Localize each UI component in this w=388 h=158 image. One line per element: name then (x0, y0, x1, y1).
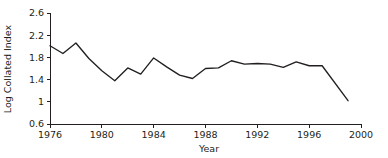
x-tick-label: 1980 (90, 129, 114, 140)
y-axis-group: 0.611.41.82.22.6 (29, 7, 50, 129)
line-chart: 0.611.41.82.22.6 19761980198419881992199… (0, 0, 388, 158)
x-tick-label: 1976 (38, 129, 62, 140)
x-axis-group: 1976198019841988199219962000 (38, 124, 373, 140)
x-axis-title: Year (198, 143, 219, 154)
x-tick-label: 2000 (349, 129, 373, 140)
y-tick-label: 1.8 (29, 52, 44, 63)
y-tick-labels: 0.611.41.82.22.6 (29, 7, 44, 129)
x-tick-label: 1984 (142, 129, 166, 140)
chart-container: 0.611.41.82.22.6 19761980198419881992199… (0, 0, 388, 158)
x-tick-label: 1988 (193, 129, 217, 140)
x-tick-labels: 1976198019841988199219962000 (38, 129, 373, 140)
y-tick-label: 0.6 (29, 118, 44, 129)
x-tick-label: 1996 (297, 129, 321, 140)
y-tick-marks (47, 13, 51, 124)
x-tick-marks (50, 124, 361, 128)
y-tick-label: 2.6 (29, 7, 44, 18)
y-tick-label: 1.4 (29, 74, 44, 85)
data-series-line (50, 43, 348, 101)
y-axis-title: Log Collated Index (2, 24, 13, 113)
y-tick-label: 2.2 (29, 30, 44, 41)
x-tick-label: 1992 (245, 129, 269, 140)
y-tick-label: 1 (38, 96, 44, 107)
